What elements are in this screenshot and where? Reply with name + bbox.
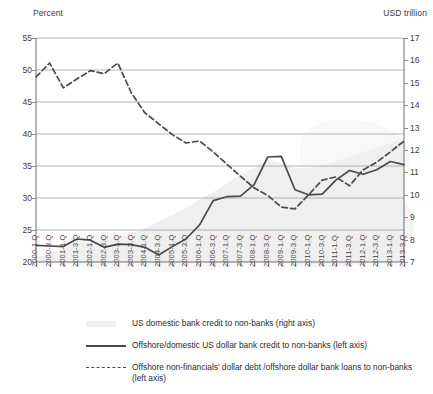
y-axis-right-tick-8: 8 [410,235,415,245]
y-axis-left-tick-55: 55 [23,33,32,43]
y-axis-left-tickmark-35 [32,166,36,167]
legend-swatch-solid [86,340,132,351]
x-axis-tick-label: 2012-1.Q [358,235,367,267]
legend-label: US domestic bank credit to non-banks (ri… [132,318,315,329]
x-axis-tick-label: 2002-3.Q [99,235,108,267]
legend-item: US domestic bank credit to non-banks (ri… [86,318,416,329]
y-axis-right-tick-14: 14 [410,100,419,110]
y-axis-right-tickmark-13 [404,128,408,129]
right-axis-title: USD trillion [383,8,427,18]
x-axis-tick-label: 2006-3.Q [208,235,217,267]
legend-item: Offshore non-financials’ dollar debt /of… [86,362,416,384]
y-axis-right-tick-15: 15 [410,78,419,88]
y-axis-right-tick-10: 10 [410,190,419,200]
y-axis-right-tick-11: 11 [410,167,419,177]
x-axis-tick-label: 2009-1.Q [276,235,285,267]
x-axis-tick-label: 2005-1.Q [167,235,176,267]
x-axis-tick-label: 2011-1.Q [330,235,339,267]
y-axis-left-tickmark-25 [32,230,36,231]
x-axis-tick-label: 2001-1.Q [58,235,67,267]
y-axis-right-tickmark-9 [404,217,408,218]
legend-swatch-dashed [86,362,132,373]
x-axis-tick-label: 2000-1.Q [30,235,39,267]
y-axis-left-tick-30: 30 [23,193,32,203]
y-axis-left-tick-45: 45 [23,97,32,107]
x-axis-tick-label: 2000-3.Q [44,235,53,267]
y-axis-left-tickmark-30 [32,198,36,199]
y-axis-right-tickmark-16 [404,60,408,61]
chart-legend: US domestic bank credit to non-banks (ri… [86,318,416,394]
x-axis-tick-label: 2007-1.Q [221,235,230,267]
x-axis-tick-label: 2007-3.Q [235,235,244,267]
y-axis-right-tickmark-12 [404,150,408,151]
y-axis-left-tickmark-45 [32,102,36,103]
x-axis-tick-label: 2001-3.Q [71,235,80,267]
y-axis-right-tick-16: 16 [410,55,419,65]
chart-figure: Percent USD trillion 2025303540455055789… [0,0,433,394]
y-axis-left-tick-40: 40 [23,129,32,139]
y-axis-right-tickmark-17 [404,38,408,39]
y-axis-left-tick-50: 50 [23,65,32,75]
x-axis-tick-label: 2008-1.Q [248,235,257,267]
plot-canvas [36,38,404,262]
y-axis-right-tickmark-11 [404,172,408,173]
x-axis-tick-label: 2013-1.Q [385,235,394,267]
legend-marker-dashed [86,367,126,368]
y-axis-right-tickmark-14 [404,105,408,106]
x-axis-tick-label: 2004-3.Q [153,235,162,267]
y-axis-left-tickmark-55 [32,38,36,39]
y-axis-right-tickmark-15 [404,83,408,84]
y-axis-left-tickmark-50 [32,70,36,71]
legend-marker-area [86,321,116,327]
x-axis-tick-label: 2004-1.Q [139,235,148,267]
legend-label: Offshore non-financials’ dollar debt /of… [132,362,416,384]
y-axis-right-tickmark-10 [404,195,408,196]
left-axis-title: Percent [33,8,63,18]
legend-item: Offshore/domestic US dollar bank credit … [86,340,416,351]
y-axis-right-tick-13: 13 [410,123,419,133]
x-axis-tick-label: 2013-3.Q [398,235,407,267]
y-axis-right-tick-17: 17 [410,33,419,43]
legend-label: Offshore/domestic US dollar bank credit … [132,340,367,351]
y-axis-right-tick-9: 9 [410,212,415,222]
x-axis-tick-label: 2003-3.Q [126,235,135,267]
x-axis-tick-label: 2009-3.Q [289,235,298,267]
y-axis-left-tick-25: 25 [23,225,32,235]
y-axis-right-tick-12: 12 [410,145,419,155]
y-axis-left-tick-35: 35 [23,161,32,171]
legend-marker-solid [86,345,126,347]
x-axis-tick-label: 2003-1.Q [112,235,121,267]
x-axis-tick-label: 2006-1.Q [194,235,203,267]
x-axis-tick-label: 2005-3.Q [180,235,189,267]
x-axis-tick-label: 2012-3.Q [371,235,380,267]
x-axis-tick-label: 2002-1.Q [85,235,94,267]
x-axis-tick-label: 2011-3.Q [344,235,353,267]
x-axis-tick-label: 2010-3.Q [317,235,326,267]
y-axis-right-tick-7: 7 [410,257,415,267]
plot-area: 202530354045505578910111213141516172000-… [36,38,404,262]
x-axis-tick-label: 2010-1.Q [303,235,312,267]
x-axis-tick-label: 2008-3.Q [262,235,271,267]
y-axis-left-tickmark-40 [32,134,36,135]
legend-swatch-area [86,318,132,329]
